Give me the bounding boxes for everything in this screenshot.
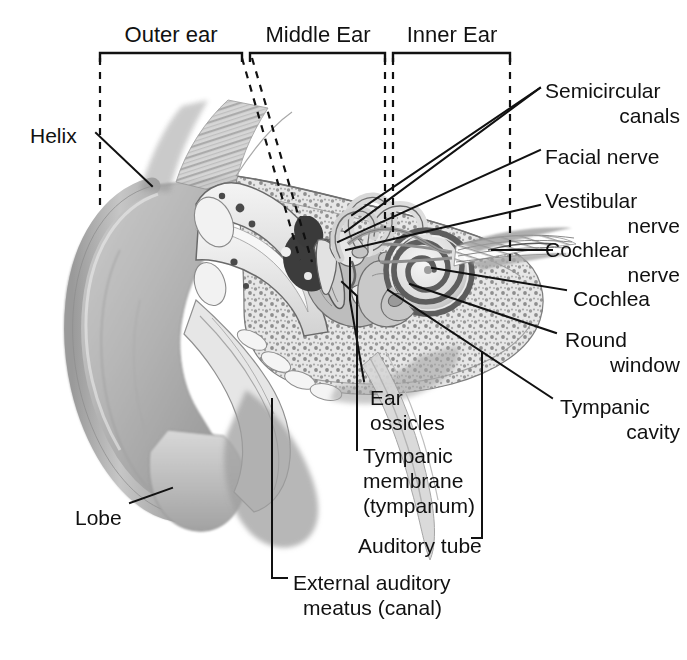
round-window-line2: window <box>545 352 680 377</box>
label-helix: Helix <box>30 123 77 148</box>
label-cochlea: Cochlea <box>573 286 650 311</box>
label-facial-nerve: Facial nerve <box>545 144 659 169</box>
tympanic-membrane-line3: (tympanum) <box>363 493 543 518</box>
label-external-auditory-meatus: External auditory meatus (canal) <box>293 570 543 620</box>
cochlear-nerve-line1: Cochlear <box>545 237 680 262</box>
meatus-line1: External auditory <box>293 570 543 595</box>
label-semicircular-canals: Semicircular canals <box>545 78 680 128</box>
label-ear-ossicles: Ear ossicles <box>370 385 510 435</box>
vestibular-nerve-line1: Vestibular <box>545 188 680 213</box>
tympanic-cavity-line2: cavity <box>560 419 680 444</box>
ear-ossicles-line1: Ear <box>370 385 510 410</box>
meatus-line2: meatus (canal) <box>293 595 543 620</box>
label-tympanic-cavity: Tympanic cavity <box>560 394 680 444</box>
vestibular-nerve-line2: nerve <box>545 213 680 238</box>
label-lobe: Lobe <box>75 505 122 530</box>
region-header-inner-ear: Inner Ear <box>352 22 552 48</box>
semicircular-canals-line2: canals <box>545 103 680 128</box>
tympanic-membrane-line1: Tympanic <box>363 443 543 468</box>
label-vestibular-nerve: Vestibular nerve <box>545 188 680 238</box>
region-brackets <box>100 53 510 62</box>
tympanic-cavity-line1: Tympanic <box>560 394 680 419</box>
cochlear-nerve-line2: nerve <box>545 262 680 287</box>
ear-ossicles-line2: ossicles <box>370 410 510 435</box>
label-round-window: Round window <box>545 327 680 377</box>
label-cochlear-nerve: Cochlear nerve <box>545 237 680 287</box>
label-tympanic-membrane: Tympanic membrane (tympanum) <box>363 443 543 518</box>
label-auditory-tube: Auditory tube <box>358 533 482 558</box>
leader-helix <box>96 133 152 186</box>
leader-semicircular-a <box>352 88 540 215</box>
semicircular-canals-line1: Semicircular <box>545 78 680 103</box>
round-window-line1: Round <box>545 327 680 352</box>
ear-anatomy-figure: Outer ear Middle Ear Inner Ear Helix Lob… <box>0 0 687 660</box>
tympanic-membrane-line2: membrane <box>363 468 543 493</box>
